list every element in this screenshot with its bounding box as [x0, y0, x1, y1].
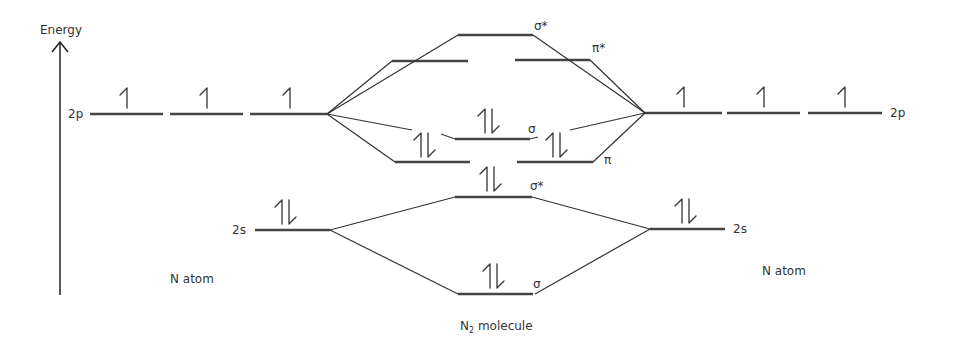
spin-up-icon	[275, 200, 282, 224]
pi-2p-label: π	[604, 153, 611, 167]
sigma-star-2s-label: σ*	[530, 179, 544, 193]
spin-up-icon	[414, 133, 421, 157]
right-2p-levels: 2p	[645, 87, 905, 120]
left-2p-label: 2p	[68, 107, 83, 121]
right-atom-label: N atom	[762, 264, 806, 278]
spin-down-icon	[492, 109, 499, 133]
left-atom-label: N atom	[170, 272, 214, 286]
energy-axis: Energy	[40, 23, 82, 295]
right-2p-label: 2p	[890, 106, 905, 120]
spin-up-icon	[120, 88, 127, 108]
spin-up-icon	[546, 133, 553, 157]
mo-diagram: Energy 2p 2p σ* π* σ π	[0, 0, 953, 347]
spin-up-icon	[757, 87, 764, 107]
molecular-2p-levels: σ* π* σ π	[392, 19, 611, 167]
spin-up-icon	[283, 88, 290, 108]
left-2s-label: 2s	[232, 223, 246, 237]
spin-up-icon	[200, 88, 207, 108]
spin-up-icon	[838, 87, 845, 107]
molecule-label: N2 molecule	[460, 319, 533, 335]
spin-down-icon	[689, 199, 696, 223]
spin-down-icon	[428, 133, 435, 157]
sigma-2p-label: σ	[528, 122, 536, 136]
pi-star-2p-label: π*	[592, 41, 605, 55]
spin-up-icon	[480, 167, 487, 191]
left-2p-levels: 2p	[68, 88, 327, 121]
spin-down-icon	[560, 133, 567, 157]
spin-up-icon	[483, 264, 490, 288]
right-2s-label: 2s	[733, 222, 747, 236]
spin-down-icon	[289, 200, 296, 224]
2s-levels: 2s 2s σ* σ	[232, 167, 747, 294]
spin-up-icon	[677, 87, 684, 107]
sigma-2s-label: σ	[533, 277, 541, 291]
spin-down-icon	[494, 167, 501, 191]
sigma-star-2p-label: σ*	[534, 19, 548, 33]
energy-axis-label: Energy	[40, 23, 82, 37]
spin-up-icon	[478, 109, 485, 133]
spin-up-icon	[675, 199, 682, 223]
spin-down-icon	[497, 264, 504, 288]
